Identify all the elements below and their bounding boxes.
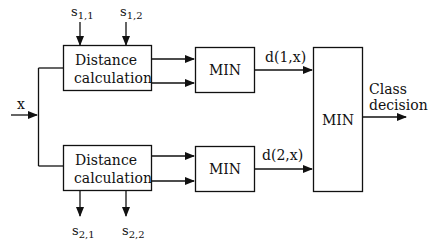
svg-text:MIN: MIN: [209, 161, 241, 177]
svg-text:s1,2: s1,2: [120, 4, 143, 21]
input-label: x: [17, 96, 25, 112]
svg-text:Class: Class: [369, 81, 407, 97]
svg-text:decision: decision: [369, 97, 428, 113]
svg-text:calculation: calculation: [74, 70, 152, 86]
signal-s22: s2,2: [122, 191, 145, 240]
svg-text:calculation: calculation: [74, 170, 152, 186]
svg-text:s2,2: s2,2: [122, 223, 145, 240]
distance-calculation-block-1: Distance calculation: [64, 46, 152, 91]
output-class-decision: Class decision: [363, 81, 428, 117]
input-splitter: [39, 68, 64, 166]
svg-text:Distance: Distance: [75, 152, 137, 168]
min-block-2: MIN: [196, 147, 255, 192]
svg-text:d(1,x): d(1,x): [265, 49, 306, 65]
input-x: x: [11, 96, 37, 115]
min-block-final: MIN: [314, 48, 363, 192]
signal-d2: d(2,x): [255, 147, 312, 169]
classifier-block-diagram: x Distance calculation s1,1 s1,2 MIN d(1…: [0, 0, 429, 245]
signal-s11: s1,1: [71, 4, 94, 45]
svg-text:MIN: MIN: [322, 112, 354, 128]
svg-text:Distance: Distance: [75, 52, 137, 68]
svg-text:d(2,x): d(2,x): [262, 147, 303, 163]
distance-calculation-block-2: Distance calculation: [64, 146, 152, 191]
signal-s12: s1,2: [120, 4, 143, 45]
signal-d1: d(1,x): [255, 49, 312, 70]
min-block-1: MIN: [196, 48, 255, 93]
signal-s21: s2,1: [72, 191, 95, 240]
svg-text:MIN: MIN: [209, 62, 241, 78]
svg-text:s1,1: s1,1: [71, 4, 94, 21]
svg-text:s2,1: s2,1: [72, 223, 95, 240]
